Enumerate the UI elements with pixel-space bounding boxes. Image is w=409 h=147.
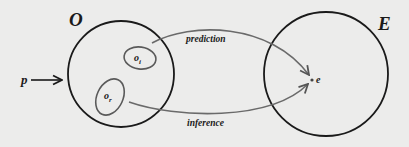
set-e-label: E — [377, 13, 391, 34]
point-e-dot — [310, 78, 313, 81]
subset-o-r: or — [90, 74, 130, 119]
inference-arrow-icon — [129, 84, 308, 114]
input-p: p — [20, 72, 62, 87]
edge-prediction: prediction — [152, 30, 309, 75]
diagram-canvas: O p oi or E e prediction inference — [0, 0, 409, 147]
set-e: E — [264, 12, 391, 136]
set-o-label: O — [69, 9, 83, 30]
set-e-circle — [264, 12, 388, 136]
point-e-label: e — [316, 74, 321, 85]
subset-o-r-label: or — [104, 90, 112, 104]
set-o-circle — [68, 21, 174, 127]
prediction-label: prediction — [185, 34, 226, 44]
point-e: e — [310, 74, 321, 85]
subset-o-i: oi — [123, 45, 158, 71]
edge-inference: inference — [129, 84, 308, 128]
prediction-arrow-icon — [152, 30, 309, 75]
inference-label: inference — [187, 118, 225, 128]
subset-o-i-label: oi — [134, 52, 141, 66]
input-p-label: p — [20, 72, 28, 87]
